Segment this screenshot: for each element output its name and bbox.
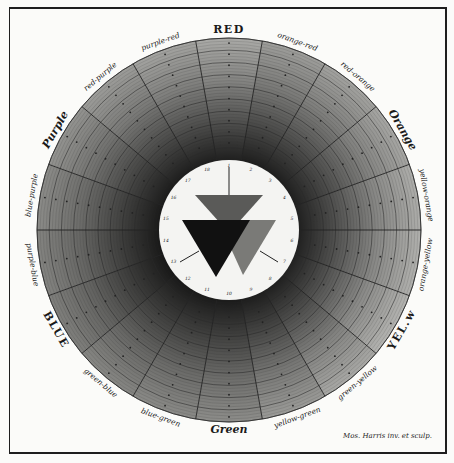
- ring-dot: [228, 372, 230, 374]
- ring-dot: [55, 260, 57, 262]
- ring-dot: [95, 306, 97, 308]
- engraver-signature: Mos. Harris inv. et sculp.: [343, 432, 432, 440]
- ring-dot: [66, 258, 68, 260]
- ring-dot: [142, 244, 144, 246]
- ring-dot: [341, 364, 343, 366]
- ring-dot: [99, 252, 101, 254]
- ring-dot: [131, 246, 133, 248]
- ring-dot: [144, 128, 146, 130]
- ring-dot: [305, 137, 307, 139]
- ring-dot: [108, 86, 110, 88]
- ring-dot: [327, 111, 329, 113]
- ring-dot: [228, 394, 230, 396]
- ring-dot: [298, 313, 300, 315]
- ring-dot: [325, 246, 327, 248]
- ring-dot: [325, 212, 327, 214]
- ring-dot: [133, 174, 135, 176]
- ring-dot: [277, 363, 279, 365]
- ring-dot: [158, 145, 160, 147]
- dial-number: 16: [171, 195, 177, 200]
- ring-dot: [228, 416, 230, 418]
- ring-dot: [85, 311, 87, 313]
- color-wheel-plate: 123456789101112131415161718 REDorange-re…: [0, 0, 454, 463]
- ring-dot: [401, 199, 403, 201]
- ring-dot: [348, 86, 350, 88]
- ring-dot: [228, 316, 230, 318]
- ring-dot: [179, 95, 181, 97]
- ring-dot: [228, 109, 230, 111]
- ring-dot: [332, 289, 334, 291]
- ring-dot: [314, 214, 316, 216]
- ring-dot: [176, 373, 178, 375]
- dial-number: 8: [269, 276, 272, 281]
- dial-number: 14: [163, 238, 169, 243]
- ring-dot: [262, 137, 264, 139]
- ring-dot: [401, 260, 403, 262]
- ring-dot: [176, 85, 178, 87]
- ring-dot: [298, 145, 300, 147]
- ring-dot: [120, 248, 122, 250]
- dial-number: 11: [204, 287, 210, 292]
- ring-dot: [228, 120, 230, 122]
- ring-dot: [390, 323, 392, 325]
- ring-dot: [153, 186, 155, 188]
- ring-dot: [198, 311, 200, 313]
- dial-number: 7: [283, 259, 286, 264]
- ring-dot: [304, 186, 306, 188]
- ring-dot: [153, 273, 155, 275]
- ring-dot: [95, 152, 97, 154]
- ring-dot: [195, 321, 197, 323]
- ring-dot: [368, 204, 370, 206]
- ring-dot: [131, 212, 133, 214]
- ring-dot: [314, 244, 316, 246]
- ring-dot: [187, 116, 189, 118]
- ring-dot: [284, 74, 286, 76]
- ring-dot: [265, 126, 267, 128]
- ring-dot: [313, 180, 315, 182]
- ring-dot: [133, 284, 135, 286]
- ring-dot: [288, 64, 290, 66]
- ring-dot: [228, 87, 230, 89]
- ring-dot: [99, 206, 101, 208]
- ring-dot: [412, 197, 414, 199]
- ring-dot: [168, 64, 170, 66]
- ring-dot: [228, 405, 230, 407]
- ring-dot: [158, 313, 160, 315]
- ring-dot: [334, 103, 336, 105]
- ring-dot: [368, 254, 370, 256]
- ring-dot: [371, 311, 373, 313]
- dial-number: 4: [282, 195, 286, 200]
- ring-dot: [380, 317, 382, 319]
- ring-dot: [164, 53, 166, 55]
- ring-dot: [323, 174, 325, 176]
- ring-dot: [105, 158, 107, 160]
- ring-dot: [305, 321, 307, 323]
- ring-dot: [284, 384, 286, 386]
- ring-dot: [66, 136, 68, 138]
- ring-dot: [228, 349, 230, 351]
- ring-dot: [151, 321, 153, 323]
- ring-dot: [412, 262, 414, 264]
- ring-dot: [228, 75, 230, 77]
- ring-dot: [323, 284, 325, 286]
- ring-dot: [284, 296, 286, 298]
- dial-number: 6: [291, 238, 294, 243]
- ring-dot: [110, 208, 112, 210]
- ring-dot: [304, 273, 306, 275]
- ring-dot: [115, 364, 117, 366]
- ring-dot: [142, 214, 144, 216]
- center-dial: 123456789101112131415161718: [159, 160, 299, 300]
- ring-dot: [258, 311, 260, 313]
- ring-dot: [228, 53, 230, 55]
- ring-dot: [228, 338, 230, 340]
- ring-dot: [164, 405, 166, 407]
- ring-dot: [269, 342, 271, 344]
- ring-dot: [143, 180, 145, 182]
- ring-dot: [124, 289, 126, 291]
- ring-dot: [77, 256, 79, 258]
- ring-dot: [183, 106, 185, 108]
- ring-dot: [348, 372, 350, 374]
- ring-dot: [151, 137, 153, 139]
- dial-number: 9: [249, 287, 252, 292]
- ring-dot: [334, 355, 336, 357]
